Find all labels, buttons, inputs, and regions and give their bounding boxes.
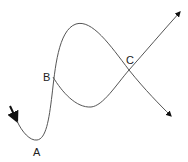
entry-arrow: [10, 106, 17, 121]
curve-diagram: A B C: [0, 0, 188, 162]
label-b: B: [43, 71, 50, 83]
label-c: C: [126, 54, 134, 66]
main-curve: [17, 23, 171, 140]
label-a: A: [33, 146, 41, 158]
